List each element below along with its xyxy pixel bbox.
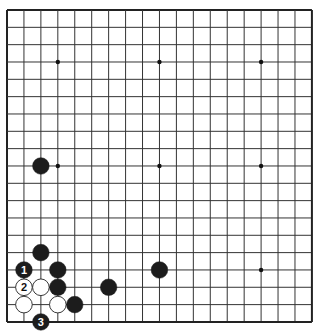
star-point-icon bbox=[56, 164, 60, 168]
star-point-icon bbox=[56, 60, 60, 64]
white-stone-icon bbox=[33, 279, 50, 296]
black-stone[interactable] bbox=[50, 262, 67, 279]
white-stone[interactable] bbox=[33, 279, 50, 296]
black-stone-icon bbox=[33, 158, 50, 175]
move-number: 3 bbox=[38, 316, 44, 328]
black-stone-icon bbox=[151, 262, 168, 279]
black-stone-icon bbox=[66, 296, 83, 313]
black-stone[interactable] bbox=[66, 296, 83, 313]
white-stone[interactable] bbox=[16, 296, 33, 313]
black-stone[interactable] bbox=[33, 158, 50, 175]
white-stone-icon bbox=[50, 296, 67, 313]
black-stone[interactable] bbox=[50, 279, 67, 296]
black-stone[interactable] bbox=[151, 262, 168, 279]
move-number: 1 bbox=[21, 264, 27, 276]
black-stone-icon bbox=[33, 244, 50, 261]
black-stone[interactable] bbox=[100, 279, 117, 296]
move-number: 2 bbox=[21, 281, 27, 293]
white-stone[interactable]: 2 bbox=[16, 279, 33, 296]
white-stone[interactable] bbox=[50, 296, 67, 313]
star-point-icon bbox=[157, 60, 161, 64]
white-stone-icon bbox=[16, 296, 33, 313]
star-point-icon bbox=[259, 164, 263, 168]
star-point-icon bbox=[259, 268, 263, 272]
black-stone-icon bbox=[50, 262, 67, 279]
black-stone[interactable]: 3 bbox=[33, 314, 50, 331]
star-point-icon bbox=[157, 164, 161, 168]
black-stone-icon bbox=[100, 279, 117, 296]
black-stone[interactable] bbox=[33, 244, 50, 261]
go-board[interactable]: 123 bbox=[0, 0, 321, 334]
star-point-icon bbox=[259, 60, 263, 64]
black-stone-icon bbox=[50, 279, 67, 296]
black-stone[interactable]: 1 bbox=[16, 262, 33, 279]
